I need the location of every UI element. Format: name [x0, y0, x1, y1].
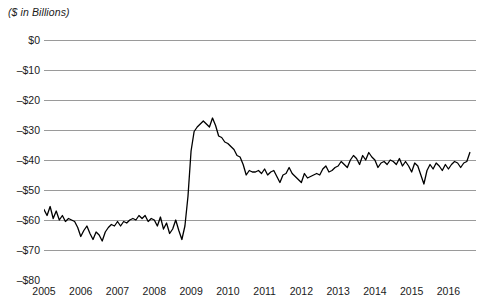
x-tick-label: 2015 — [400, 285, 423, 297]
gridlines — [44, 40, 476, 280]
plot-area — [44, 40, 476, 280]
chart-svg — [44, 40, 476, 280]
y-axis-labels: $0–$10–$20–$30–$40–$50–$60–$70–$80 — [0, 40, 40, 280]
x-tick-label: 2014 — [363, 285, 386, 297]
x-tick-label: 2007 — [106, 285, 129, 297]
y-tick-label: –$50 — [17, 184, 40, 196]
chart-title: ($ in Billions) — [8, 6, 70, 18]
data-line — [44, 118, 470, 241]
y-tick-label: –$30 — [17, 124, 40, 136]
y-tick-label: $0 — [28, 34, 40, 46]
data-series-group — [44, 118, 470, 241]
x-tick-label: 2013 — [326, 285, 349, 297]
x-axis-labels: 2005200620072008200920102011201220132014… — [44, 283, 476, 301]
x-tick-label: 2016 — [437, 285, 460, 297]
y-tick-label: –$10 — [17, 64, 40, 76]
x-tick-label: 2005 — [32, 285, 55, 297]
x-tick-label: 2010 — [216, 285, 239, 297]
y-tick-label: –$60 — [17, 214, 40, 226]
y-tick-label: –$40 — [17, 154, 40, 166]
x-tick-label: 2009 — [179, 285, 202, 297]
x-tick-label: 2012 — [290, 285, 313, 297]
x-tick-label: 2008 — [143, 285, 166, 297]
y-tick-label: –$70 — [17, 244, 40, 256]
x-tick-label: 2006 — [69, 285, 92, 297]
y-tick-label: –$20 — [17, 94, 40, 106]
x-tick-label: 2011 — [253, 285, 276, 297]
chart-container: ($ in Billions) $0–$10–$20–$30–$40–$50–$… — [0, 0, 483, 306]
